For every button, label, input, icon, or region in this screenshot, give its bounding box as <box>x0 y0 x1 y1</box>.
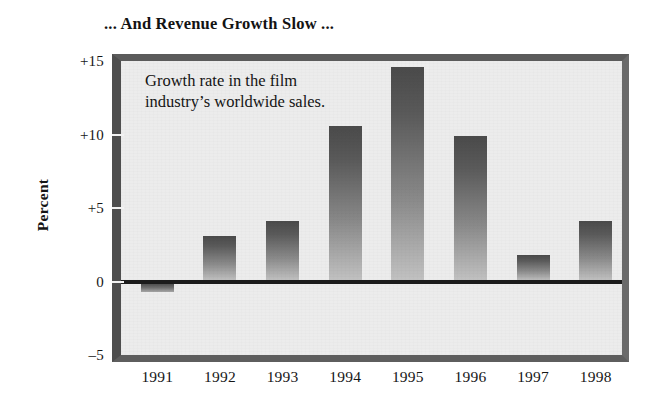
y-tick-mark <box>112 207 124 209</box>
bar-1992 <box>203 236 236 282</box>
bar-1996 <box>454 136 487 282</box>
y-axis-tick-labels: +15+10+50–5 <box>46 0 104 410</box>
bar-1995 <box>391 67 424 282</box>
bar-1998 <box>579 221 612 281</box>
y-tick-label: +5 <box>50 200 104 217</box>
x-tick-label: 1992 <box>185 368 255 386</box>
y-tick-mark <box>112 281 124 283</box>
figure-bar-chart: ... And Revenue Growth Slow ... Percent … <box>0 0 658 410</box>
bar-1997 <box>517 255 550 281</box>
y-tick-label: 0 <box>50 273 104 290</box>
bar-1994 <box>329 126 362 282</box>
x-axis-tick-labels: 19911992199319941995199619971998 <box>121 368 622 392</box>
y-tick-label: +10 <box>50 126 104 143</box>
x-tick-label: 1997 <box>498 368 568 386</box>
chart-title: ... And Revenue Growth Slow ... <box>104 14 334 34</box>
x-tick-label: 1995 <box>373 368 443 386</box>
y-tick-label: +15 <box>50 53 104 70</box>
chart-annotation: Growth rate in the film industry’s world… <box>145 70 360 113</box>
x-tick-label: 1998 <box>561 368 631 386</box>
x-tick-label: 1994 <box>310 368 380 386</box>
y-tick-mark <box>112 134 124 136</box>
x-tick-label: 1993 <box>248 368 318 386</box>
x-tick-label: 1996 <box>435 368 505 386</box>
y-tick-label: –5 <box>50 347 104 364</box>
bar-1993 <box>266 221 299 281</box>
x-tick-label: 1991 <box>122 368 192 386</box>
zero-baseline <box>121 280 622 284</box>
